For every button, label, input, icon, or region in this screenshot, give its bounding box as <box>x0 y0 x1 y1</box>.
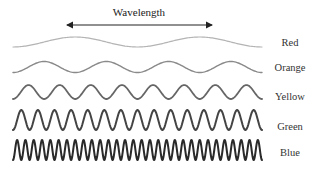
wave-red <box>13 37 262 47</box>
wave-group <box>13 37 262 160</box>
label-yellow: Yellow <box>268 91 312 103</box>
wavelength-title: Wavelength <box>99 6 179 18</box>
label-red: Red <box>268 37 312 49</box>
wave-blue <box>13 140 262 160</box>
label-blue: Blue <box>268 147 312 159</box>
label-green: Green <box>268 121 312 133</box>
wave-orange <box>13 62 262 73</box>
wave-green <box>13 110 262 130</box>
label-orange: Orange <box>268 62 312 74</box>
wave-yellow <box>13 85 262 99</box>
